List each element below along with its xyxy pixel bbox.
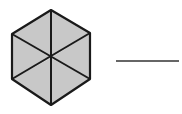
diagram-canvas — [0, 0, 182, 114]
hexagon — [12, 10, 90, 105]
